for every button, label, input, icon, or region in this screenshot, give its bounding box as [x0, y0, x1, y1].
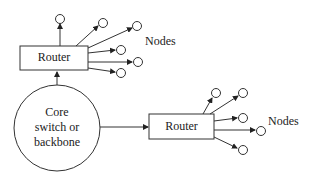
node-circle: [257, 127, 266, 136]
router1-link: [88, 28, 132, 48]
router1-link: [76, 26, 98, 46]
node-circle: [56, 15, 65, 24]
router2-link: [203, 98, 212, 114]
node-circle: [212, 89, 221, 98]
router1-label: Router: [20, 50, 88, 65]
router1-nodes-label: Nodes: [145, 34, 176, 49]
node-circle: [99, 19, 108, 28]
node-circle: [239, 114, 248, 123]
router2-link: [210, 96, 238, 114]
node-circle: [239, 146, 248, 155]
core-switch-label: Core switch or backbone: [14, 105, 100, 150]
node-circle: [133, 22, 142, 31]
core-label-line: backbone: [14, 135, 100, 150]
node-circle: [239, 89, 248, 98]
router1-link: [88, 50, 115, 53]
core-label-line: switch or: [14, 120, 100, 135]
core-label-line: Core: [14, 105, 100, 120]
node-circle: [117, 69, 126, 78]
router1-link: [88, 68, 115, 72]
node-circle: [117, 46, 126, 55]
router2-link: [214, 118, 237, 121]
diagram-canvas: [0, 0, 311, 178]
router2-label: Router: [149, 119, 214, 134]
router2-nodes-label: Nodes: [268, 114, 299, 129]
router2-link: [214, 137, 237, 148]
network-diagram: Router Nodes Router Nodes Core switch or…: [0, 0, 311, 178]
node-circle: [134, 58, 143, 67]
